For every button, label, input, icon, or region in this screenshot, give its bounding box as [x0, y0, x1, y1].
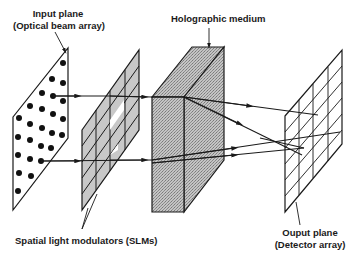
holographic-medium: [152, 47, 224, 212]
input-plane-label: Input plane (Optical beam array): [13, 8, 103, 32]
holographic-interconnect-diagram: [0, 0, 352, 262]
output-plane-label: Ouput plane (Detector array): [270, 227, 350, 251]
spatial-light-modulator: [82, 50, 139, 210]
output-plane-label-line1: Ouput plane: [270, 227, 350, 239]
input-plane-label-line1: Input plane: [13, 8, 103, 20]
output-plane-label-line2: (Detector array): [270, 239, 350, 251]
input-plane: [13, 48, 68, 210]
slm-label: Spatial light modulators (SLMs): [15, 235, 165, 247]
input-plane-label-line2: (Optical beam array): [13, 20, 103, 32]
holographic-medium-label: Holographic medium: [171, 13, 271, 25]
output-plane: [285, 50, 342, 212]
